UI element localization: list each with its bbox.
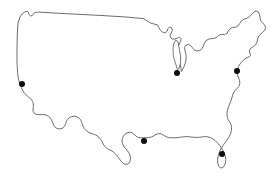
us-outline-map[interactable] xyxy=(0,0,278,178)
marker-great-lakes[interactable] xyxy=(174,70,180,76)
marker-south-central[interactable] xyxy=(141,138,147,144)
marker-west-coast[interactable] xyxy=(19,81,25,87)
marker-southeast[interactable] xyxy=(219,151,225,157)
map-figure xyxy=(0,0,278,178)
marker-northeast[interactable] xyxy=(234,68,240,74)
